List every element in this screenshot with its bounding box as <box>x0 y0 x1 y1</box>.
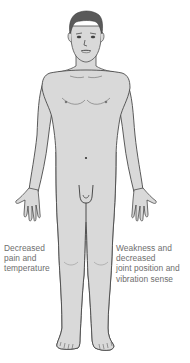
right-ear <box>101 32 104 42</box>
label-weakness-joint-position-vibration: Weakness and decreased joint position an… <box>116 243 180 284</box>
head <box>68 11 104 62</box>
label-line: decreased <box>116 253 180 263</box>
label-line: vibration sense <box>116 274 180 284</box>
right-hand <box>16 188 41 221</box>
left-hand <box>132 188 157 221</box>
left-ear <box>68 32 71 42</box>
label-line: pain and <box>4 253 50 263</box>
label-line: temperature <box>4 263 50 273</box>
navel <box>85 157 87 159</box>
body-diagram <box>0 0 190 363</box>
label-decreased-pain-temperature: Decreased pain and temperature <box>4 243 50 274</box>
label-line: joint position and <box>116 263 180 273</box>
face <box>71 26 102 62</box>
label-line: Weakness and <box>116 243 180 253</box>
label-line: Decreased <box>4 243 50 253</box>
